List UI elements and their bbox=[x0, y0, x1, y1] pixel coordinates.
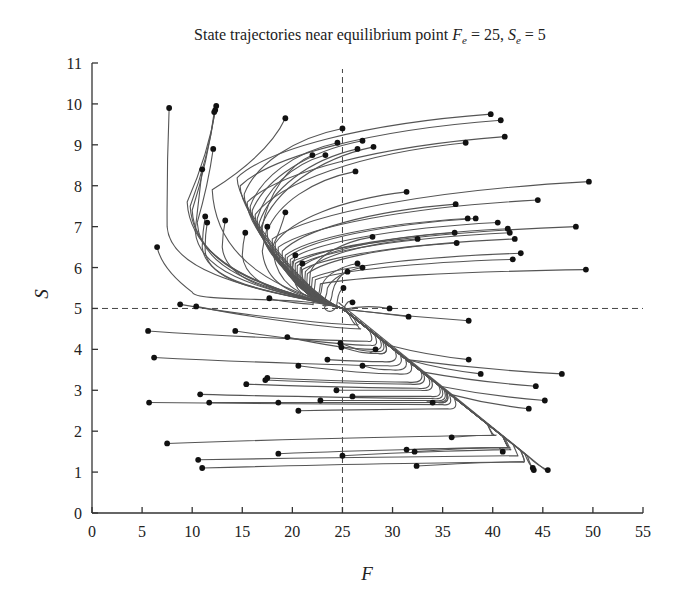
initial-point-marker bbox=[310, 152, 316, 158]
trajectory bbox=[265, 308, 424, 384]
initial-point-marker bbox=[242, 230, 248, 236]
y-tick-label: 3 bbox=[74, 382, 82, 399]
initial-point-marker bbox=[586, 179, 592, 185]
y-tick-label: 9 bbox=[74, 137, 82, 154]
axes: 0510152025303540455055 01234567891011 bbox=[66, 55, 651, 540]
trajectory bbox=[235, 308, 376, 345]
x-tick-label: 30 bbox=[385, 523, 401, 540]
initial-point-marker bbox=[275, 451, 281, 457]
initial-point-marker bbox=[507, 230, 513, 236]
y-axis-label: S bbox=[31, 289, 52, 299]
initial-point-marker bbox=[353, 169, 359, 175]
initial-point-marker bbox=[463, 140, 469, 146]
initial-point-marker bbox=[355, 146, 361, 152]
initial-point-marker bbox=[199, 166, 205, 172]
initial-point-marker bbox=[449, 434, 455, 440]
initial-point-marker bbox=[454, 240, 460, 246]
initial-point-marker bbox=[204, 220, 210, 226]
initial-point-marker bbox=[340, 453, 346, 459]
initial-point-marker bbox=[350, 394, 356, 400]
x-tick-label: 50 bbox=[585, 523, 601, 540]
initial-point-marker bbox=[197, 391, 203, 397]
initial-point-marker bbox=[177, 301, 183, 307]
trajectory bbox=[342, 308, 561, 373]
trajectory bbox=[247, 137, 505, 309]
title-text: State trajectories near equilibrium poin… bbox=[194, 26, 546, 46]
initial-point-marker bbox=[154, 244, 160, 250]
trajectory bbox=[342, 308, 528, 408]
initial-point-marker bbox=[531, 467, 537, 473]
initial-point-marker bbox=[199, 465, 205, 471]
initial-point-marker bbox=[299, 261, 305, 267]
initial-point-marker bbox=[275, 400, 281, 406]
initial-point-marker bbox=[282, 115, 288, 121]
initial-point-marker bbox=[266, 295, 272, 301]
y-tick-label: 8 bbox=[74, 178, 82, 195]
y-tick-label: 11 bbox=[67, 55, 82, 72]
trajectory bbox=[327, 308, 396, 361]
initial-point-marker bbox=[360, 265, 366, 271]
initial-point-marker bbox=[195, 457, 201, 463]
trajectory bbox=[278, 308, 509, 453]
x-tick-label: 5 bbox=[138, 523, 146, 540]
initial-point-marker bbox=[542, 398, 548, 404]
x-tick-label: 0 bbox=[88, 523, 96, 540]
trajectory bbox=[148, 308, 372, 341]
initial-point-marker bbox=[526, 406, 532, 412]
initial-point-marker bbox=[518, 250, 524, 256]
x-tick-label: 35 bbox=[435, 523, 451, 540]
initial-point-marker bbox=[498, 117, 504, 123]
trajectory bbox=[255, 143, 465, 309]
initial-point-marker bbox=[206, 400, 212, 406]
trajectory bbox=[341, 308, 386, 353]
y-tick-label: 0 bbox=[74, 505, 82, 522]
chart-title: State trajectories near equilibrium poin… bbox=[194, 26, 546, 46]
x-tick-label: 15 bbox=[234, 523, 250, 540]
x-tick-label: 25 bbox=[334, 523, 350, 540]
y-tick-label: 1 bbox=[74, 464, 82, 481]
trajectory bbox=[240, 120, 501, 308]
initial-point-marker bbox=[500, 449, 506, 455]
initial-point-marker bbox=[533, 383, 539, 389]
trajectory bbox=[317, 270, 586, 309]
initial-point-marker bbox=[335, 140, 341, 146]
initial-point-marker bbox=[339, 344, 345, 350]
initial-point-marker bbox=[210, 146, 216, 152]
x-tick-label: 45 bbox=[535, 523, 551, 540]
trajectory bbox=[342, 308, 544, 400]
initial-point-marker bbox=[573, 224, 579, 230]
initial-point-marker bbox=[166, 105, 172, 111]
initial-point-marker bbox=[559, 371, 565, 377]
initial-point-marker bbox=[295, 363, 301, 369]
initial-point-marker bbox=[295, 408, 301, 414]
x-tick-label: 55 bbox=[635, 523, 651, 540]
x-tick-label: 40 bbox=[485, 523, 501, 540]
initial-point-marker bbox=[325, 357, 331, 363]
trajectory-curves bbox=[148, 106, 589, 472]
initial-point-marker bbox=[360, 138, 366, 144]
initial-point-marker bbox=[502, 134, 508, 140]
trajectory bbox=[342, 308, 508, 449]
trajectory bbox=[342, 308, 508, 451]
initial-point-marker bbox=[465, 216, 471, 222]
initial-point-marker bbox=[452, 230, 458, 236]
x-axis-label: F bbox=[360, 563, 373, 584]
initial-point-marker bbox=[478, 371, 484, 377]
initial-point-marker bbox=[406, 314, 412, 320]
initial-point-marker bbox=[412, 449, 418, 455]
y-axis-ticks: 01234567891011 bbox=[66, 55, 98, 522]
initial-point-marker bbox=[387, 306, 393, 312]
trajectory bbox=[342, 308, 533, 470]
initial-point-marker bbox=[340, 126, 346, 132]
initial-point-marker bbox=[495, 220, 501, 226]
initial-point-marker bbox=[292, 252, 298, 258]
initial-point-marker bbox=[318, 398, 324, 404]
equilibrium-reference-lines bbox=[92, 69, 643, 513]
initial-point-marker bbox=[512, 236, 518, 242]
initial-point-marker bbox=[488, 111, 494, 117]
trajectory bbox=[202, 308, 524, 468]
initial-point-marker bbox=[323, 152, 329, 158]
initial-point-marker bbox=[371, 144, 377, 150]
initial-point-marker bbox=[360, 363, 366, 369]
initial-point-marker bbox=[466, 318, 472, 324]
